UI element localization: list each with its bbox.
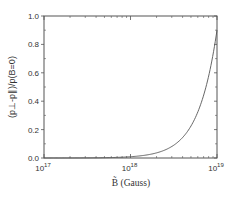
- y-tick-label: 0.6: [28, 69, 40, 78]
- y-axis-label: (p⊥-p∥)/p(B=0): [7, 56, 17, 118]
- y-tick-label: 0.2: [28, 126, 40, 135]
- plot-frame: [44, 16, 217, 158]
- x-tick-label: 1018: [122, 162, 138, 173]
- x-tick-label: 1019: [208, 162, 224, 173]
- x-tick-label: 1017: [35, 162, 51, 173]
- x-axis-label: B̃ (Gauss): [112, 176, 150, 189]
- chart: 0.00.20.40.60.81.0 101710181019 (p⊥-p∥)/…: [0, 0, 231, 200]
- y-tick-label: 0.4: [28, 97, 40, 106]
- y-tick-label: 0.0: [28, 154, 40, 163]
- x-axis: 101710181019: [35, 16, 224, 173]
- data-series-curve: [44, 30, 217, 158]
- y-axis: 0.00.20.40.60.81.0: [28, 12, 217, 163]
- y-tick-label: 1.0: [28, 12, 40, 21]
- y-tick-label: 0.8: [28, 40, 40, 49]
